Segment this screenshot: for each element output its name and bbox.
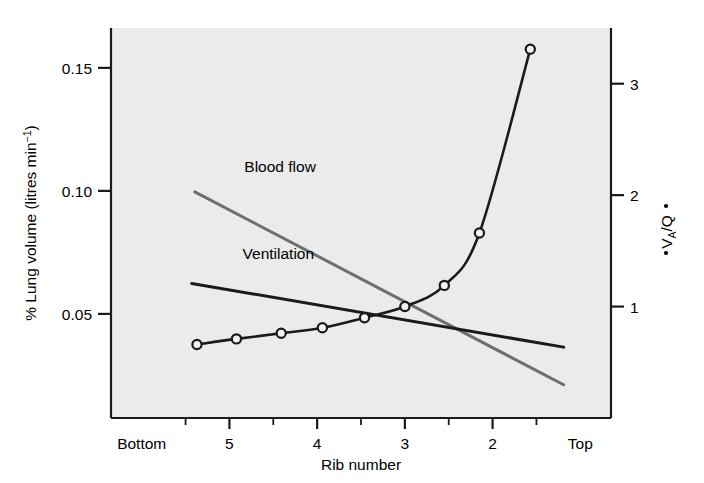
right-tick-label: 1	[630, 299, 639, 316]
bottom-axis-ticks	[186, 418, 537, 429]
right-axis-title: VA/Q	[658, 204, 678, 255]
x-tick-label: 4	[313, 435, 322, 452]
ventilation-perfusion-chart: 0.050.100.15 123 Bottom5432Top Blood flo…	[0, 0, 704, 483]
figure-container: 0.050.100.15 123 Bottom5432Top Blood flo…	[0, 0, 704, 483]
v-overdot-icon	[664, 251, 668, 255]
svg-text:VA/Q: VA/Q	[658, 215, 678, 249]
data-point-marker	[318, 323, 327, 332]
left-axis-ticks	[98, 68, 111, 314]
left-tick-label: 0.10	[62, 183, 93, 200]
left-axis-tick-labels: 0.050.100.15	[62, 60, 93, 323]
x-axis-title: Rib number	[321, 456, 401, 473]
right-axis-title-q: Q	[658, 215, 675, 227]
data-point-marker	[400, 302, 409, 311]
svg-text:% Lung volume (litres min−1): % Lung volume (litres min−1)	[21, 125, 39, 320]
x-axis-tick-labels: Bottom5432Top	[117, 435, 593, 452]
left-axis-title-text: % Lung volume (litres min	[22, 142, 39, 320]
series-label-1: Ventilation	[243, 245, 315, 262]
right-axis-title-a-subscript: A	[666, 232, 678, 239]
x-tick-label: 2	[488, 435, 497, 452]
left-axis-title-tail: )	[22, 125, 39, 130]
x-tick-label: Bottom	[117, 435, 166, 452]
left-tick-label: 0.05	[62, 306, 92, 323]
right-axis-ticks	[611, 84, 624, 307]
data-point-marker	[192, 340, 201, 349]
left-axis-title: % Lung volume (litres min−1)	[21, 125, 39, 320]
right-axis-tick-labels: 123	[630, 76, 639, 316]
data-point-marker	[277, 329, 286, 338]
data-point-marker	[360, 313, 369, 322]
plot-background	[111, 28, 611, 418]
data-point-marker	[475, 228, 484, 237]
x-tick-label: 5	[225, 435, 234, 452]
series-label-0: Blood flow	[244, 158, 316, 175]
x-tick-label: Top	[568, 435, 593, 452]
left-axis-title-exponent: −1	[21, 130, 33, 142]
right-tick-label: 3	[630, 76, 639, 93]
left-tick-label: 0.15	[62, 60, 92, 77]
right-tick-label: 2	[630, 187, 639, 204]
data-point-marker	[526, 45, 535, 54]
data-point-marker	[232, 334, 241, 343]
q-overdot-icon	[664, 204, 668, 208]
right-axis-title-v: V	[658, 238, 675, 249]
data-point-marker	[440, 281, 449, 290]
x-tick-label: 3	[401, 435, 410, 452]
